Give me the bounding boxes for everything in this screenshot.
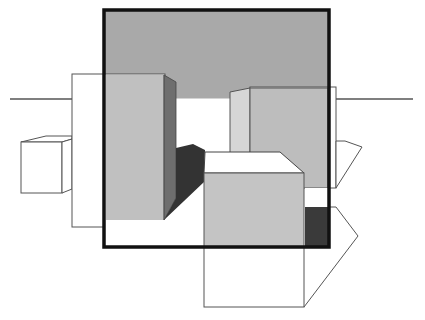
right-back-box-side xyxy=(336,141,362,188)
right-gap xyxy=(305,188,328,207)
left-small-cube xyxy=(21,136,72,193)
perspective-boxes-illustration xyxy=(0,0,425,320)
left-tall-box-front xyxy=(106,75,164,220)
left-tall-box-side xyxy=(164,75,176,220)
front-cube-front xyxy=(204,173,304,247)
front-cube-lower-outline xyxy=(204,247,304,307)
illustration-canvas xyxy=(0,0,425,320)
front-cube-side-dark xyxy=(305,207,328,247)
right-back-box-left-face xyxy=(230,88,250,153)
